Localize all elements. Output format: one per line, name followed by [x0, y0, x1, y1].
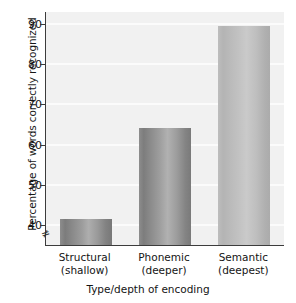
- x-axis-tick-labels: Structural(shallow)Phonemic(deeper)Seman…: [45, 251, 284, 281]
- plot-area: [45, 12, 284, 246]
- y-axis-ticks: 405060708090: [18, 18, 42, 240]
- x-tick-label-1: Phonemic(deeper): [138, 251, 189, 277]
- bar-chart-figure: Percentage of words correctly recognized…: [0, 0, 296, 303]
- bar-1: [139, 128, 191, 245]
- bar-0: [60, 219, 112, 245]
- bar-2: [218, 26, 270, 245]
- gridline: [46, 23, 284, 25]
- x-tick-label-2: Semantic(deepest): [218, 251, 269, 277]
- x-axis-title: Type/depth of encoding: [0, 283, 296, 295]
- x-tick-label-0: Structural(shallow): [59, 251, 111, 277]
